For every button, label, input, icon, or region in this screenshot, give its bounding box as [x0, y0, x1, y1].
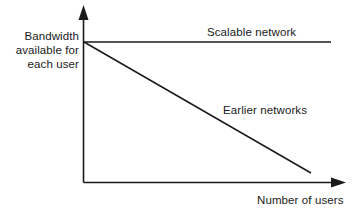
bandwidth-vs-users-chart: Bandwidth available for each user Scalab… — [0, 0, 358, 218]
y-axis-label: Bandwidth available for each user — [0, 29, 79, 71]
x-axis-label: Number of users — [257, 193, 344, 207]
series-label-earlier-networks: Earlier networks — [223, 103, 307, 117]
y-axis-label-line-1: Bandwidth — [0, 29, 79, 43]
y-axis-label-line-2: available for — [0, 43, 79, 57]
y-axis-arrowhead-icon — [79, 5, 89, 20]
x-axis-arrowhead-icon — [331, 178, 346, 188]
y-axis-label-line-3: each user — [0, 57, 79, 71]
series-label-scalable-network: Scalable network — [207, 25, 296, 39]
